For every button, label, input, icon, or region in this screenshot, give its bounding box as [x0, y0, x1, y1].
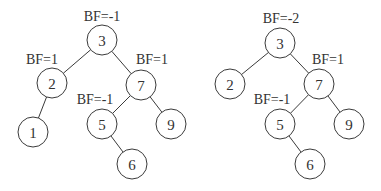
left-tree-edge-7-9: [150, 97, 162, 112]
nodes-layer: 3271596327596: [18, 25, 364, 179]
node-value: 9: [167, 117, 175, 133]
node-value: 6: [128, 157, 136, 173]
left-tree-bf-label-3: BF=-1: [84, 9, 121, 24]
avl-tree-diagram: 3271596327596 BF=-1BF=1BF=1BF=-1BF=-2BF=…: [0, 0, 381, 191]
right-tree-bf-label-5: BF=-1: [254, 92, 291, 107]
right-tree-node-9: 9: [334, 109, 364, 139]
right-tree-bf-label-3: BF=-2: [263, 11, 300, 26]
node-value: 5: [98, 117, 106, 133]
node-value: 1: [29, 125, 37, 141]
left-tree-edge-2-1: [38, 97, 46, 118]
right-tree-node-2: 2: [215, 69, 245, 99]
left-tree-node-9: 9: [156, 109, 186, 139]
left-tree-node-3: 3: [87, 25, 117, 55]
left-tree-edge-7-5: [113, 96, 131, 114]
node-value: 3: [98, 33, 106, 49]
node-value: 7: [137, 78, 145, 94]
node-value: 7: [315, 77, 323, 93]
node-value: 2: [48, 76, 56, 92]
right-tree-edge-7-9: [328, 96, 340, 112]
left-tree-edge-3-2: [63, 50, 90, 73]
right-tree-node-7: 7: [304, 69, 334, 99]
right-tree-node-5: 5: [265, 109, 295, 139]
right-tree-edge-3-2: [242, 53, 269, 75]
left-tree-bf-label-5: BF=-1: [77, 92, 114, 107]
right-tree-node-3: 3: [265, 28, 295, 58]
left-tree-bf-label-2: BF=1: [26, 52, 58, 67]
node-value: 2: [226, 77, 234, 93]
node-value: 6: [306, 157, 314, 173]
right-tree-edge-5-6: [289, 136, 301, 152]
right-tree-bf-label-7: BF=1: [312, 52, 344, 67]
node-value: 5: [276, 117, 284, 133]
left-tree-node-5: 5: [87, 109, 117, 139]
right-tree-edge-3-7: [290, 54, 308, 73]
left-tree-node-7: 7: [126, 70, 156, 100]
left-tree-node-1: 1: [18, 117, 48, 147]
left-tree-edge-3-7: [112, 51, 131, 73]
left-tree-edge-5-6: [111, 136, 123, 152]
right-tree-edge-7-5: [290, 95, 308, 114]
node-value: 9: [345, 117, 353, 133]
left-tree-node-2: 2: [37, 68, 67, 98]
left-tree-node-6: 6: [117, 149, 147, 179]
left-tree-bf-label-7: BF=1: [136, 52, 168, 67]
node-value: 3: [276, 36, 284, 52]
right-tree-node-6: 6: [295, 149, 325, 179]
balance-factor-labels: BF=-1BF=1BF=1BF=-1BF=-2BF=1BF=-1: [26, 9, 344, 107]
